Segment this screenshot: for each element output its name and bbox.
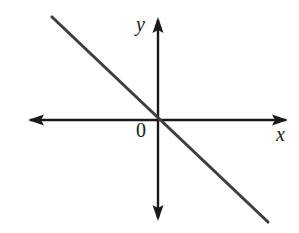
origin-label: 0	[136, 120, 146, 140]
graph-figure: ) y x 0	[0, 0, 299, 233]
x-axis-label: x	[276, 124, 285, 144]
y-axis-label: y	[136, 14, 145, 34]
coordinate-plane-svg	[0, 0, 299, 233]
